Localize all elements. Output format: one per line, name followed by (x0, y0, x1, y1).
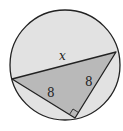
circle-triangle-diagram: x 8 8 (0, 0, 123, 131)
left-leg-label: 8 (47, 86, 55, 100)
right-leg-label: 8 (85, 75, 93, 89)
hypotenuse-label: x (59, 49, 66, 63)
